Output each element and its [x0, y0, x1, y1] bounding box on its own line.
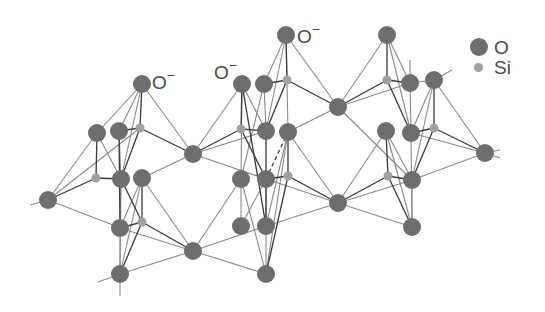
oxygen-anion-label-1: O−	[152, 70, 175, 92]
si-atom	[92, 174, 101, 183]
o-atom	[232, 217, 250, 235]
o-atom	[279, 123, 297, 141]
label-charge: −	[229, 57, 237, 73]
si-atom	[283, 76, 292, 85]
silicate-structure-diagram	[0, 0, 545, 312]
label-symbol: O	[152, 72, 167, 93]
o-atom	[133, 75, 151, 93]
legend-label-oxygen: O	[494, 38, 509, 57]
o-atom	[277, 26, 295, 44]
si-atom	[136, 124, 145, 133]
oxygen-anion-label-3: O−	[297, 24, 320, 46]
si-atom	[284, 172, 293, 181]
o-atom	[257, 265, 275, 283]
si-atom	[384, 172, 393, 181]
si-atom	[383, 76, 392, 85]
o-atom	[133, 169, 151, 187]
o-atom	[425, 71, 443, 89]
o-atom	[255, 75, 273, 93]
si-atom	[430, 124, 439, 133]
o-atom	[401, 74, 419, 92]
o-atom	[257, 170, 275, 188]
o-atom	[111, 265, 129, 283]
label-symbol: O	[297, 26, 312, 47]
o-atom	[39, 191, 57, 209]
oxygen-swatch-icon	[470, 38, 488, 56]
o-atom	[257, 122, 275, 140]
o-atom	[184, 242, 202, 260]
legend: O Si	[470, 37, 511, 77]
o-atom	[111, 219, 129, 237]
legend-label-silicon: Si	[494, 58, 511, 77]
o-atom	[377, 122, 395, 140]
silicon-swatch-icon	[474, 63, 483, 72]
legend-item-oxygen: O	[470, 37, 511, 57]
o-atom	[110, 122, 128, 140]
o-atom	[232, 170, 250, 188]
o-atom	[88, 124, 106, 142]
o-atom	[112, 170, 130, 188]
o-atom	[329, 194, 347, 212]
o-atom	[402, 124, 420, 142]
o-atom	[476, 144, 494, 162]
si-atom	[237, 125, 246, 134]
label-charge: −	[312, 21, 320, 37]
label-charge: −	[167, 67, 175, 83]
o-atom	[184, 145, 202, 163]
o-atom	[403, 218, 421, 236]
o-atom	[257, 217, 275, 235]
o-atom	[403, 171, 421, 189]
label-symbol: O	[214, 62, 229, 83]
oxygen-anion-label-2: O−	[214, 60, 237, 82]
o-atom	[378, 26, 396, 44]
si-atom	[138, 218, 147, 227]
legend-item-silicon: Si	[470, 57, 511, 77]
o-atom	[329, 98, 347, 116]
